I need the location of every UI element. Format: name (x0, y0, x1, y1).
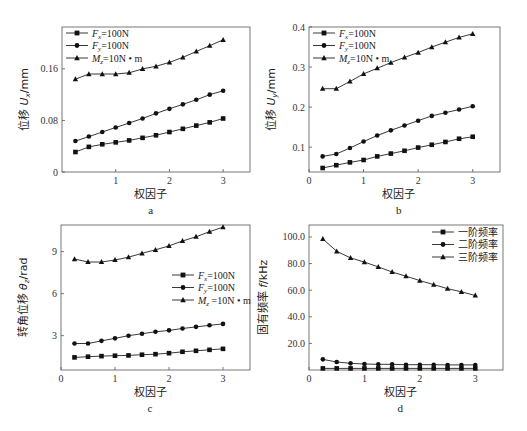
data-point-square-marker (99, 354, 104, 359)
data-point-square-marker (320, 166, 325, 171)
data-point-circle-marker (389, 128, 394, 133)
data-point-circle-marker (180, 326, 185, 331)
legend-label: 一阶频率 (458, 226, 498, 238)
data-point-square-marker (100, 142, 105, 147)
data-point-circle-marker (99, 339, 104, 344)
y-tick-label: 20.0 (288, 338, 306, 349)
x-axis-title: 权因子 (134, 188, 167, 201)
y-tick-label: 0.3 (293, 62, 306, 73)
data-point-square-marker (207, 348, 212, 353)
data-point-circle-marker (73, 139, 78, 144)
x-tick-label: 3 (221, 373, 226, 384)
data-point-square-marker (180, 349, 185, 354)
legend: Fx=100NFy=100NMz=10N • m (313, 28, 389, 66)
data-point-circle-marker (390, 362, 395, 367)
y-tick-label: 0.4 (293, 22, 306, 33)
data-point-square-marker (140, 136, 145, 141)
data-point-square-marker (113, 353, 118, 358)
legend-item: Fy=100N (172, 282, 235, 295)
series-c-2 (72, 224, 226, 264)
data-point-circle-marker (154, 111, 159, 116)
y-tick-label: 60.0 (288, 285, 306, 296)
series-c-1 (72, 322, 225, 346)
series-line (75, 349, 224, 358)
data-point-square-marker (443, 140, 448, 145)
data-point-square-marker (140, 352, 145, 357)
legend-circle-marker (75, 43, 80, 48)
y-tick-label: 0.1 (293, 142, 306, 153)
legend-item: Mz=10N • m (66, 53, 142, 66)
series-line (323, 137, 473, 168)
data-point-square-marker (87, 145, 92, 150)
data-point-circle-marker (100, 130, 105, 135)
x-tick-label: 0 (59, 373, 64, 384)
legend-label: 二阶频率 (458, 238, 498, 250)
y-axis-title: 位移 Ux/mm (17, 68, 32, 131)
data-point-square-marker (375, 154, 380, 159)
data-point-square-marker (72, 355, 77, 360)
series-d-2 (320, 236, 478, 298)
legend-circle-marker (181, 285, 186, 290)
data-point-circle-marker (375, 133, 380, 138)
data-point-square-marker (457, 136, 462, 141)
x-tick-label: 1 (113, 175, 118, 186)
data-point-square-marker (389, 151, 394, 156)
data-point-circle-marker (459, 363, 464, 368)
data-point-circle-marker (72, 341, 77, 346)
data-point-circle-marker (418, 362, 423, 367)
data-point-circle-marker (334, 152, 339, 157)
x-tick-label: 2 (167, 373, 172, 384)
chart-c: 0123369Fx=100NFy=100NMz =10N • m权因子转角位移 … (16, 224, 251, 414)
chart-a: 12300.080.16Fx=100NFy=100NMz=10N • m权因子位… (17, 27, 250, 216)
legend-label: Mz=10N • m (338, 53, 389, 66)
data-point-circle-marker (207, 323, 212, 328)
x-tick-label: 2 (416, 175, 421, 186)
data-point-triangle-marker (320, 236, 325, 241)
data-point-circle-marker (321, 357, 326, 362)
y-axis-title: 转角位移 θz/rad (16, 258, 31, 338)
x-tick-label: 2 (417, 373, 422, 384)
x-tick-label: 2 (167, 175, 172, 186)
data-point-triangle-marker (220, 37, 225, 42)
data-point-square-marker (167, 130, 172, 135)
data-point-circle-marker (127, 121, 132, 126)
y-tick-label: 0.08 (41, 115, 59, 126)
data-point-square-marker (416, 145, 421, 150)
series-b-1 (320, 104, 475, 159)
data-point-square-marker (194, 123, 199, 128)
data-point-circle-marker (207, 92, 212, 97)
data-point-circle-marker (181, 102, 186, 107)
legend-label: 三阶频率 (458, 251, 498, 263)
legend-label: Fy=100N (91, 40, 129, 53)
data-point-triangle-marker (470, 31, 475, 36)
data-point-circle-marker (348, 361, 353, 366)
data-point-circle-marker (376, 362, 381, 367)
data-point-circle-marker (140, 116, 145, 121)
legend-circle-marker (441, 242, 446, 247)
data-point-square-marker (402, 148, 407, 153)
series-d-1 (321, 357, 478, 367)
data-point-square-marker (362, 366, 367, 371)
legend-label: Fx=100N (91, 28, 129, 41)
x-tick-label: 0 (307, 373, 312, 384)
legend: Fx=100NFy=100NMz =10N • m (172, 270, 251, 308)
legend-item: Fy=100N (313, 40, 376, 53)
data-point-square-marker (207, 120, 212, 125)
x-tick-label: 1 (113, 373, 118, 384)
legend-label: Fy=100N (197, 282, 235, 295)
data-point-circle-marker (416, 118, 421, 123)
x-tick-label: 3 (473, 373, 478, 384)
data-point-square-marker (390, 366, 395, 371)
data-point-circle-marker (402, 123, 407, 128)
subfigure-caption: d (397, 402, 403, 414)
y-tick-label: 100.0 (283, 231, 306, 242)
series-b-0 (320, 134, 475, 170)
data-point-circle-marker (194, 98, 199, 103)
data-point-circle-marker (153, 329, 158, 334)
data-point-circle-marker (221, 322, 226, 327)
legend-square-marker (322, 31, 327, 36)
legend-circle-marker (322, 43, 327, 48)
data-point-circle-marker (334, 360, 339, 365)
data-point-square-marker (167, 351, 172, 356)
legend-item: 三阶频率 (432, 251, 498, 263)
